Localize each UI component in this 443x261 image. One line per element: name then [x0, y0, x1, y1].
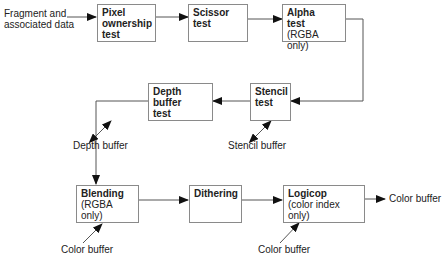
stage-title: test	[102, 29, 151, 40]
stencil-buffer-label: Stencil buffer	[228, 140, 286, 151]
stage-title: Logicop	[288, 188, 360, 199]
stage-title: Scissor	[193, 7, 243, 18]
input-label-line1: Fragment and	[4, 8, 74, 19]
stage-subtitle: (color index only)	[288, 199, 360, 221]
stage-title: Stencil	[255, 86, 286, 97]
output-color-buffer-label: Color buffer	[389, 193, 441, 204]
stage-stencil-test: Stencil test	[250, 83, 291, 121]
blending-color-buffer-label: Color buffer	[61, 244, 113, 255]
arrow-depth-buffer	[95, 121, 111, 137]
stage-title: Blending	[81, 188, 134, 199]
input-label: Fragment and associated data	[4, 8, 74, 30]
stage-title: test	[193, 18, 243, 29]
arrow-color-buffer-to-logicop	[280, 223, 299, 243]
stage-title: Pixel	[102, 7, 151, 18]
stage-subtitle: (RGBA only)	[81, 199, 134, 221]
stage-blending: Blending (RGBA only)	[76, 185, 139, 223]
stage-dithering: Dithering	[189, 185, 242, 223]
input-label-line2: associated data	[4, 19, 74, 30]
stage-title: test	[153, 108, 208, 119]
logicop-color-buffer-label: Color buffer	[258, 244, 310, 255]
stage-title: Dithering	[194, 188, 237, 199]
arrow-stencil-buffer	[255, 121, 271, 137]
stage-title: Depth buffer	[153, 86, 208, 108]
stage-logicop: Logicop (color index only)	[283, 185, 365, 223]
stage-alpha-test: Alpha test (RGBA only)	[282, 4, 346, 42]
stage-scissor-test: Scissor test	[188, 4, 248, 42]
arrow-color-buffer-to-blending	[83, 224, 102, 243]
stage-title: ownership	[102, 18, 151, 29]
stage-title: test	[255, 97, 286, 108]
stage-title: test	[287, 18, 341, 29]
depth-buffer-label: Depth buffer	[73, 140, 128, 151]
stage-pixel-ownership-test: Pixel ownership test	[97, 4, 156, 42]
stage-title: Alpha	[287, 7, 341, 18]
stage-depth-buffer-test: Depth buffer test	[148, 83, 213, 121]
stage-subtitle: (RGBA only)	[287, 29, 341, 51]
